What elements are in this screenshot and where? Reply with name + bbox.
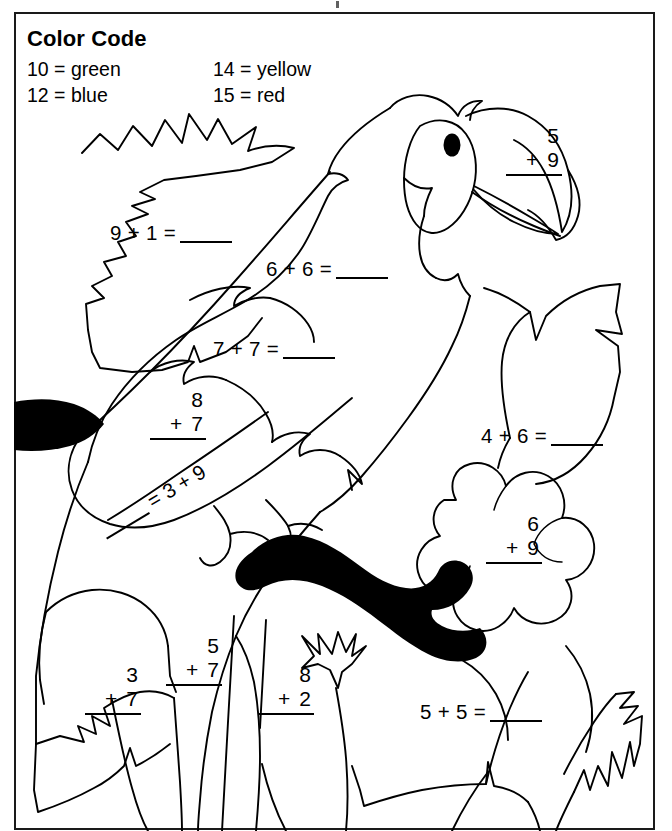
addend-bottom: 9 — [547, 148, 559, 171]
problem-8-plus-7[interactable]: 8 +7 — [150, 388, 206, 440]
addend-bottom: 2 — [299, 687, 311, 710]
addend-bottom-row: +2 — [258, 687, 314, 714]
legend-title: Color Code — [27, 27, 387, 50]
addend-bottom: 7 — [126, 687, 138, 710]
answer-blank[interactable] — [283, 357, 335, 359]
plus-sign: + — [526, 148, 538, 171]
plus-sign: + — [506, 536, 518, 559]
legend-entry-14-yellow: 14 = yellow — [213, 57, 311, 83]
answer-blank[interactable] — [336, 277, 388, 279]
plus-sign: + — [170, 412, 182, 435]
addend-bottom: 7 — [207, 658, 219, 681]
problem-3-plus-7[interactable]: 3 +7 — [85, 663, 141, 715]
addend-top: 8 — [191, 388, 206, 411]
addend-bottom-row: +9 — [506, 148, 562, 175]
legend-entry-15-red: 15 = red — [213, 83, 285, 109]
problem-expression: 9 + 1 = — [110, 221, 176, 244]
answer-blank[interactable] — [551, 444, 603, 446]
addend-bottom-row: +7 — [85, 687, 141, 714]
plus-sign: + — [278, 687, 290, 710]
problem-4-plus-6[interactable]: 4 + 6 = — [481, 424, 603, 448]
problem-6-plus-9[interactable]: 6 +9 — [486, 512, 542, 564]
problem-5-plus-7[interactable]: 5 +7 — [166, 634, 222, 686]
legend-entry-12-blue: 12 = blue — [27, 83, 213, 109]
problem-5-plus-5[interactable]: 5 + 5 = — [420, 700, 542, 724]
answer-blank[interactable] — [180, 241, 232, 243]
plus-sign: + — [105, 687, 117, 710]
addend-bottom: 7 — [191, 412, 203, 435]
addend-top: 5 — [547, 124, 562, 147]
problem-8-plus-2[interactable]: 8 +2 — [258, 663, 314, 715]
problem-expression: 7 + 7 = — [213, 337, 279, 360]
legend-row: 12 = blue 15 = red — [27, 83, 387, 109]
addend-top: 8 — [299, 663, 314, 686]
addend-bottom-row: +9 — [486, 536, 542, 563]
worksheet-page: Color Code 10 = green 14 = yellow 12 = b… — [0, 0, 672, 831]
problem-5-plus-9[interactable]: 5 +9 — [506, 124, 562, 176]
addend-bottom-row: +7 — [166, 658, 222, 685]
addend-bottom: 9 — [527, 536, 539, 559]
color-code-legend: Color Code 10 = green 14 = yellow 12 = b… — [27, 27, 387, 109]
problem-expression: 6 + 6 = — [266, 257, 332, 280]
legend-row: 10 = green 14 = yellow — [27, 57, 387, 83]
scan-artifact-speck — [336, 1, 339, 8]
plus-sign: + — [186, 658, 198, 681]
problem-expression: 5 + 5 = — [420, 700, 486, 723]
problem-9-plus-1[interactable]: 9 + 1 = — [110, 221, 232, 245]
legend-entry-10-green: 10 = green — [27, 57, 213, 83]
problem-6-plus-6[interactable]: 6 + 6 = — [266, 257, 388, 281]
addend-top: 6 — [527, 512, 542, 535]
problem-7-plus-7[interactable]: 7 + 7 = — [213, 337, 335, 361]
problem-expression: 4 + 6 = — [481, 424, 547, 447]
addend-top: 5 — [207, 634, 222, 657]
addend-top: 3 — [126, 663, 141, 686]
answer-blank[interactable] — [490, 720, 542, 722]
addend-bottom-row: +7 — [150, 412, 206, 439]
